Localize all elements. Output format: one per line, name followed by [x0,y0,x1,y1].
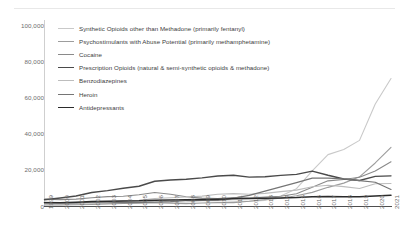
legend-item[interactable]: Heroin [58,87,358,100]
legend-item[interactable]: Psychostimulants with Abuse Potential (p… [58,35,358,48]
legend-item-label: Synthetic Opioids other than Methadone (… [79,25,245,32]
legend-item[interactable]: Benzodiazepines [58,74,358,87]
legend-swatch-icon [58,80,74,81]
legend-item-label: Benzodiazepines [79,77,127,84]
legend-item[interactable]: Antidepressants [58,101,358,114]
x-axis-tick-label: 2014 [283,195,290,209]
x-axis-tick-label: 2008 [189,195,196,209]
legend-swatch-icon [58,67,74,68]
overdose-deaths-line-chart: 020,00040,00060,00080,000100,000 1999200… [0,0,409,248]
x-axis-tick-label: 2012 [252,195,259,209]
x-axis-tick-label: 2004 [126,195,133,209]
legend-item-label: Psychostimulants with Abuse Potential (p… [79,38,270,45]
legend-swatch-icon [58,41,74,42]
x-axis-tick-label: 2000 [63,195,70,209]
x-axis-tick-label: 2013 [267,195,274,209]
x-axis-tick-label: 2016 [315,195,322,209]
x-axis-tick-label: 2005 [141,195,148,209]
x-axis-tick-label: 2011 [236,195,243,209]
legend-item[interactable]: Synthetic Opioids other than Methadone (… [58,22,358,35]
legend-item-label: Heroin [79,91,98,98]
legend-swatch-icon [58,107,74,108]
legend-item[interactable]: Prescription Opioids (natural & semi-syn… [58,61,358,74]
x-axis-tick-label: 2001 [78,195,85,209]
legend-item-label: Prescription Opioids (natural & semi-syn… [79,64,269,71]
x-axis-tick-label: 2018 [346,195,353,209]
chart-legend: Synthetic Opioids other than Methadone (… [58,22,358,114]
x-axis-tick-label: 2020 [378,195,385,209]
legend-swatch-icon [58,54,74,55]
x-axis-tick-label: 2019 [362,195,369,209]
x-axis-tick-label: 2003 [110,195,117,209]
legend-item[interactable]: Cocaine [58,48,358,61]
x-axis-tick-label: 2007 [173,195,180,209]
x-axis-tick-label: 1999 [47,195,54,209]
x-axis-tick-label: 2002 [94,195,101,209]
x-axis-tick-label: 2009 [204,195,211,209]
legend-item-label: Antidepressants [79,104,124,111]
x-axis-tick-label: 2021 [393,195,400,209]
x-axis-tick-label: 2006 [157,195,164,209]
x-axis-tick-label: 2017 [330,195,337,209]
x-axis-tick-label: 2015 [299,195,306,209]
x-axis-tick-label: 2010 [220,195,227,209]
legend-swatch-icon [58,28,74,29]
legend-swatch-icon [58,94,74,95]
legend-item-label: Cocaine [79,51,102,58]
